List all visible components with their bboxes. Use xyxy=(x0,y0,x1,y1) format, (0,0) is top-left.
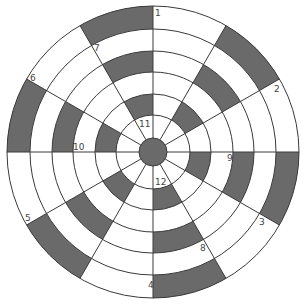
spoke-number-label: 9 xyxy=(227,153,233,163)
spoke-line xyxy=(80,26,146,140)
shaded-segment xyxy=(124,94,153,120)
shaded-segment xyxy=(80,6,153,45)
shaded-segment xyxy=(185,152,211,181)
spoke-number-label: 12 xyxy=(155,177,166,187)
target-wheel-diagram: 123456789101112 xyxy=(0,0,304,305)
spoke-number-label: 5 xyxy=(25,213,31,223)
spoke-number-label: 4 xyxy=(148,280,154,290)
shaded-segment xyxy=(7,79,46,152)
spoke-number-label: 11 xyxy=(139,119,150,129)
spoke-number-label: 2 xyxy=(274,84,280,94)
spoke-number-label: 1 xyxy=(155,8,161,18)
shaded-segment xyxy=(95,123,121,152)
shaded-segment xyxy=(172,102,204,134)
center-hub xyxy=(139,138,167,166)
shaded-segment xyxy=(153,259,226,298)
spoke-line xyxy=(27,79,141,145)
shaded-segment xyxy=(260,152,299,225)
spoke-number-label: 8 xyxy=(200,243,206,253)
spoke-number-label: 3 xyxy=(259,217,265,227)
spoke-number-label: 7 xyxy=(94,43,100,53)
spoke-number-label: 6 xyxy=(30,73,36,83)
shaded-segment xyxy=(193,65,240,112)
spoke-line xyxy=(160,164,226,278)
shaded-segment xyxy=(66,192,113,239)
shaded-segment xyxy=(153,184,182,210)
spoke-number-label: 10 xyxy=(73,142,85,152)
shaded-segment xyxy=(103,171,135,203)
spoke-line xyxy=(165,159,279,225)
